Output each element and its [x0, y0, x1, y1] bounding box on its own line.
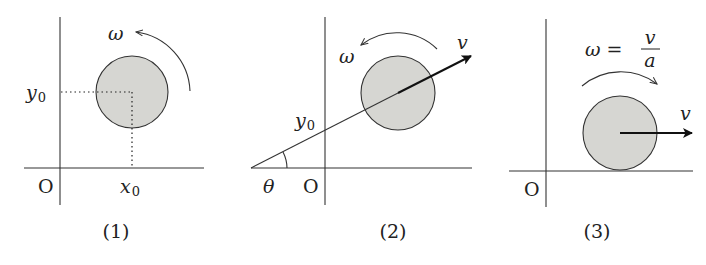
rotation-arrow-ccw	[361, 33, 437, 49]
omega-label: ω	[339, 45, 355, 67]
theta-angle-arc	[283, 152, 287, 168]
origin-label: O	[524, 178, 540, 200]
caption-1: (1)	[103, 220, 130, 242]
panel-2: ω v y0 θ O (2)	[251, 17, 472, 242]
omega-equation: ω =	[585, 38, 622, 60]
figure: ω y0 x0 O (1) ω v y0 θ O (2) ω = v a v O…	[0, 0, 706, 265]
omega-label: ω	[108, 22, 124, 44]
fraction-denominator: a	[644, 49, 655, 71]
caption-2: (2)	[380, 220, 407, 242]
theta-label: θ	[263, 175, 275, 197]
panel-3: ω = v a v O (3)	[509, 19, 693, 242]
v-label: v	[680, 102, 691, 124]
panel-1: ω y0 x0 O (1)	[24, 17, 204, 242]
fraction-numerator: v	[645, 26, 656, 48]
x0-label: x0	[120, 175, 140, 199]
origin-label: O	[303, 175, 319, 197]
y0-label: y0	[294, 109, 315, 133]
caption-3: (3)	[584, 220, 611, 242]
v-label: v	[457, 31, 468, 53]
y0-label: y0	[25, 81, 46, 105]
rotation-arrow-cw	[582, 72, 657, 86]
origin-label: O	[38, 175, 54, 197]
